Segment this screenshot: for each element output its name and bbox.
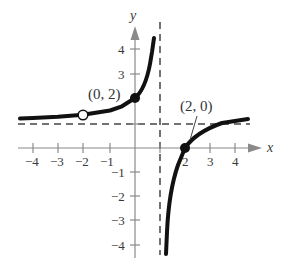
y-axis-arrow-icon bbox=[131, 26, 140, 40]
y-tick-label: 4 bbox=[118, 42, 125, 57]
x-tick-label: 4 bbox=[232, 154, 239, 169]
point-0-2-label: (0, 2) bbox=[88, 86, 121, 103]
y-tick-label: −3 bbox=[111, 213, 125, 228]
x-tick-label: −3 bbox=[50, 154, 64, 169]
y-axis-label: y bbox=[128, 8, 137, 23]
point-0-2-marker bbox=[130, 93, 140, 103]
function-graph: x −4 −3 −2 −1 2 3 4 y 4 3 −1 −2 −3 −4 bbox=[0, 0, 290, 268]
y-tick-label: 3 bbox=[118, 67, 125, 82]
y-tick-label: −1 bbox=[111, 165, 125, 180]
x-tick-label: −2 bbox=[75, 154, 89, 169]
x-tick-label: −4 bbox=[25, 154, 39, 169]
hole-marker bbox=[78, 110, 88, 120]
curve-right-branch bbox=[166, 119, 248, 254]
x-axis-arrow-icon bbox=[248, 144, 262, 153]
y-tick-label: −4 bbox=[111, 238, 125, 253]
curve-left-branch bbox=[20, 38, 154, 119]
x-tick-label: 3 bbox=[207, 154, 214, 169]
x-axis: x −4 −3 −2 −1 2 3 4 bbox=[18, 140, 274, 169]
y-axis: y 4 3 −1 −2 −3 −4 bbox=[111, 8, 140, 258]
x-axis-label: x bbox=[266, 140, 274, 155]
point-2-0-label: (2, 0) bbox=[180, 98, 213, 115]
y-tick-label: −2 bbox=[111, 189, 125, 204]
point-2-0-marker bbox=[180, 143, 190, 153]
